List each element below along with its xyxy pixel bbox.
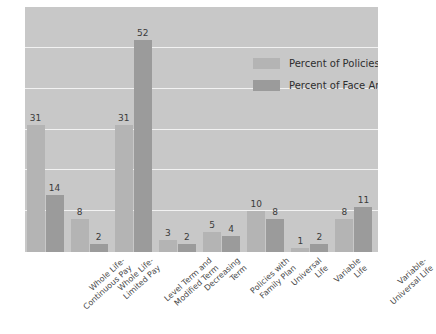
bar-value-label: 3	[159, 228, 177, 238]
legend-swatch-percent-of-face-amount	[253, 80, 280, 91]
bar	[115, 125, 133, 252]
x-axis-label: UniversalLife	[289, 256, 330, 296]
x-axis-label: Variable-Universal Life	[382, 256, 436, 307]
gridline	[25, 47, 378, 48]
legend-item-percent-of-policies: Percent of Policies	[253, 55, 378, 72]
bar-value-label: 31	[115, 113, 133, 123]
bar-value-label: 2	[90, 232, 108, 242]
bar-value-label: 8	[71, 207, 89, 217]
bar	[134, 40, 152, 252]
bar	[266, 219, 284, 252]
bar	[310, 244, 328, 252]
gridline	[25, 169, 378, 170]
chart-legend: Percent of Policies Percent of Face Amou…	[253, 55, 378, 99]
bar	[90, 244, 108, 252]
bar-value-label: 2	[178, 232, 196, 242]
bar-value-label: 8	[335, 207, 353, 217]
x-axis-labels: Whole Life-Continuous PayWhole Life-Limi…	[0, 252, 399, 334]
bar-value-label: 4	[222, 224, 240, 234]
gridline	[25, 129, 378, 130]
bar	[46, 195, 64, 252]
x-axis-label: VariableLife	[332, 256, 369, 293]
legend-item-percent-of-face-amount: Percent of Face Amount	[253, 77, 378, 94]
bar-value-label: 5	[203, 220, 221, 230]
bar-value-label: 31	[27, 113, 45, 123]
bar-value-label: 52	[134, 28, 152, 38]
bar	[71, 219, 89, 252]
bar	[27, 125, 45, 252]
legend-label-percent-of-policies: Percent of Policies	[289, 58, 378, 69]
legend-label-percent-of-face-amount: Percent of Face Amount	[289, 80, 378, 91]
bar	[247, 211, 265, 252]
legend-swatch-percent-of-policies	[253, 58, 280, 69]
bar-value-label: 2	[310, 232, 328, 242]
bar	[178, 244, 196, 252]
bar-value-label: 8	[266, 207, 284, 217]
bar-value-label: 14	[46, 183, 64, 193]
bar	[335, 219, 353, 252]
bar	[222, 236, 240, 252]
bar	[159, 240, 177, 252]
bar-value-label: 10	[247, 199, 265, 209]
bar-value-label: 11	[354, 195, 372, 205]
bar	[203, 232, 221, 252]
bar-value-label: 1	[291, 236, 309, 246]
bar	[354, 207, 372, 252]
plot-area: 3114823152325410812811 Percent of Polici…	[25, 7, 378, 252]
